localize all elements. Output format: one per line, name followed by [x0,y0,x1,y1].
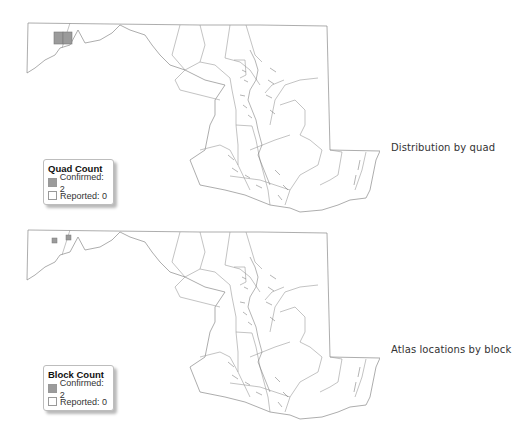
panel-caption: Atlas locations by block [391,344,511,355]
panel-caption: Distribution by quad [391,142,495,153]
reported-swatch-icon [48,191,57,200]
shoreline-detail [228,50,360,200]
confirmed-swatch-icon [48,178,57,187]
block-count-legend: Block Count Confirmed: 2 Reported: 0 [43,365,114,411]
legend-item-reported: Reported: 0 [48,189,109,202]
legend-label: Reported: 0 [60,396,107,408]
confirmed-swatch-icon [48,384,57,393]
legend-item-reported: Reported: 0 [48,395,109,408]
confirmed-quad [63,32,72,44]
legend-item-confirmed: Confirmed: 2 [48,382,109,395]
confirmed-block [52,238,57,243]
shoreline-detail [228,257,360,407]
occurrence-quads [54,32,72,44]
confirmed-quad [54,32,63,44]
quad-map-panel: Quad Count Confirmed: 2 Reported: 0 Dist… [0,0,520,210]
confirmed-block [66,235,71,240]
legend-item-confirmed: Confirmed: 2 [48,176,109,189]
quad-count-legend: Quad Count Confirmed: 2 Reported: 0 [43,159,114,205]
reported-swatch-icon [48,397,57,406]
occurrence-blocks [52,235,71,243]
block-map-panel: Block Count Confirmed: 2 Reported: 0 Atl… [0,207,520,417]
legend-label: Reported: 0 [60,190,107,202]
